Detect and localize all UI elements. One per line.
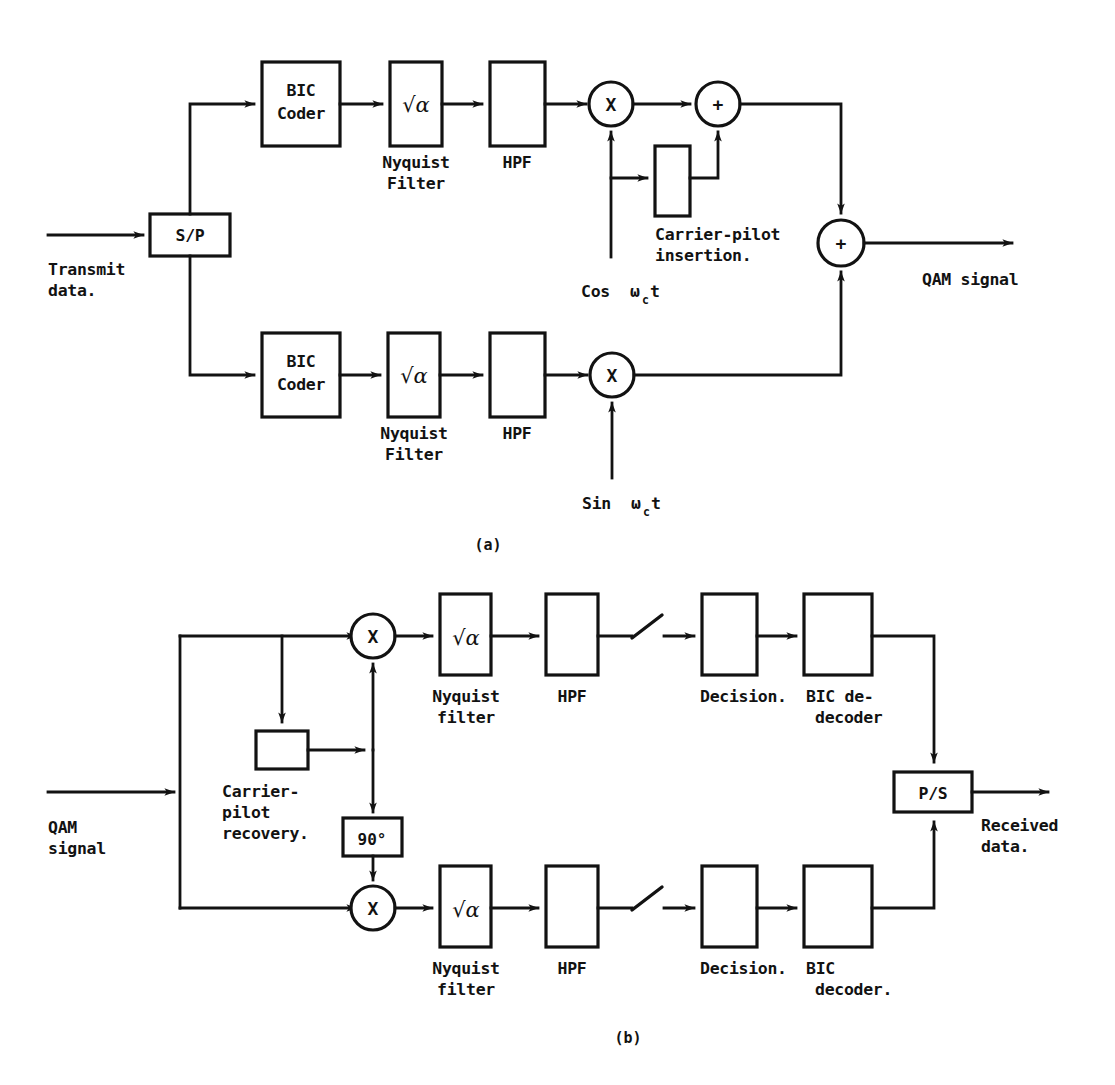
mixer-upper-symbol: X (606, 94, 617, 115)
receiver-mixer-lower-symbol: X (368, 898, 379, 919)
sin-carrier-label: Sin (582, 494, 611, 513)
receiver-nyquist-lower-label-line2: filter (437, 980, 495, 999)
transmitter-upper-branch: BIC Coder √α Nyquist Filter HPF X Cos ω … (262, 62, 841, 307)
qam-signal-input-label-line1: QAM (48, 818, 77, 837)
qam-transceiver-block-diagram: S/P Transmit data. BIC Coder √α Nyquist … (0, 0, 1115, 1085)
wire-upper-decoder-to-ps (872, 636, 934, 762)
sampler-switch-upper[interactable] (632, 615, 662, 638)
caption-a: (a) (474, 536, 501, 554)
bic-decoder-label-line2: decoder. (815, 980, 892, 999)
sin-carrier-subscript: c (643, 505, 650, 519)
wire-sp-to-lower-coder (190, 256, 254, 375)
cos-carrier-subscript: c (642, 293, 649, 307)
carrier-pilot-insertion-label-line2: insertion. (655, 246, 751, 265)
receiver-mixer-upper-symbol: X (368, 626, 379, 647)
mixer-lower-symbol: X (607, 365, 618, 386)
wire-sp-to-upper-coder (190, 104, 254, 214)
carrier-pilot-recovery-label-line2: pilot (222, 803, 270, 822)
final-adder-symbol: + (836, 233, 847, 254)
decision-lower-label: Decision. (700, 959, 787, 978)
bic-coder-upper-label-line1: BIC (287, 81, 316, 100)
ps-block-label: P/S (919, 784, 948, 803)
received-data-label-line1: Received (981, 816, 1058, 835)
nyquist-filter-lower-label-line1: Nyquist (380, 424, 447, 443)
bic-de-decoder-label-line1: BIC de- (806, 687, 873, 706)
decision-upper-label: Decision. (700, 687, 787, 706)
bic-de-decoder-block[interactable] (804, 594, 872, 675)
nyquist-filter-lower-label-line2: Filter (385, 445, 443, 464)
bic-decoder-label-line1: BIC (806, 959, 835, 978)
wire-lower-mixer-to-final-adder (634, 272, 841, 375)
cos-carrier-omega: ω (630, 282, 640, 301)
hpf-block-lower[interactable] (490, 333, 545, 417)
receiver-lower-branch: X √α Nyquist filter HPF Decision. BIC de… (351, 822, 934, 999)
sp-block-label: S/P (176, 226, 205, 245)
receiver-nyquist-upper-label-line2: filter (437, 708, 495, 727)
nyquist-filter-upper-label-line1: Nyquist (382, 153, 449, 172)
bic-decoder-block[interactable] (804, 866, 872, 947)
receiver-nyquist-upper-symbol: √α (452, 626, 480, 650)
caption-b: (b) (614, 1029, 641, 1047)
bic-coder-lower-label-line2: Coder (277, 375, 326, 394)
carrier-pilot-recovery-label-line3: recovery. (222, 824, 309, 843)
receiver-diagram: QAM signal Carrier- pilot recovery. 90° … (48, 594, 1058, 1047)
receiver-nyquist-lower-label-line1: Nyquist (432, 959, 499, 978)
receiver-nyquist-upper-label-line1: Nyquist (432, 687, 499, 706)
wire-upper-adder-to-final-adder (740, 104, 841, 213)
bic-de-decoder-label-line2: decoder (815, 708, 883, 727)
carrier-pilot-recovery-label-line1: Carrier- (222, 782, 299, 801)
receiver-nyquist-lower-symbol: √α (452, 898, 480, 922)
bic-coder-upper-label-line2: Coder (277, 104, 326, 123)
wire-pilot-block-to-adder (690, 132, 718, 178)
carrier-pilot-insertion-block[interactable] (655, 146, 690, 216)
cos-carrier-label: Cos (581, 282, 610, 301)
qam-signal-output-label: QAM signal (922, 270, 1018, 289)
sampler-switch-lower[interactable] (632, 887, 662, 910)
phase-shifter-label: 90° (358, 830, 387, 849)
hpf-lower-label: HPF (503, 424, 532, 443)
sin-carrier-time-var: t (651, 494, 661, 513)
transmitter-lower-branch: BIC Coder √α Nyquist Filter HPF X Sin ω … (262, 272, 841, 519)
receiver-hpf-lower-label: HPF (558, 959, 587, 978)
received-data-label-line2: data. (981, 837, 1029, 856)
nyquist-filter-upper-symbol: √α (402, 93, 430, 117)
bic-coder-lower-label-line1: BIC (287, 352, 316, 371)
receiver-hpf-block-lower[interactable] (546, 866, 598, 947)
nyquist-filter-upper-label-line2: Filter (387, 174, 445, 193)
receiver-upper-branch: X √α Nyquist filter HPF Decision. BIC de… (351, 594, 934, 762)
wire-lower-decoder-to-ps (872, 822, 934, 908)
decision-block-lower[interactable] (702, 866, 757, 947)
hpf-upper-label: HPF (503, 153, 532, 172)
carrier-pilot-insertion-label-line1: Carrier-pilot (655, 225, 780, 244)
nyquist-filter-lower-symbol: √α (400, 364, 428, 388)
transmitter-diagram: S/P Transmit data. BIC Coder √α Nyquist … (48, 62, 1018, 554)
carrier-pilot-recovery-block[interactable] (256, 731, 308, 769)
transmit-data-label-line2: data. (48, 281, 96, 300)
hpf-block-upper[interactable] (490, 62, 545, 146)
cos-carrier-time-var: t (650, 282, 660, 301)
adder-upper-symbol: + (713, 94, 724, 115)
receiver-hpf-upper-label: HPF (558, 687, 587, 706)
decision-block-upper[interactable] (702, 594, 757, 675)
receiver-hpf-block-upper[interactable] (546, 594, 598, 675)
transmit-data-label-line1: Transmit (48, 260, 125, 279)
sin-carrier-omega: ω (631, 494, 641, 513)
qam-signal-input-label-line2: signal (48, 839, 106, 858)
